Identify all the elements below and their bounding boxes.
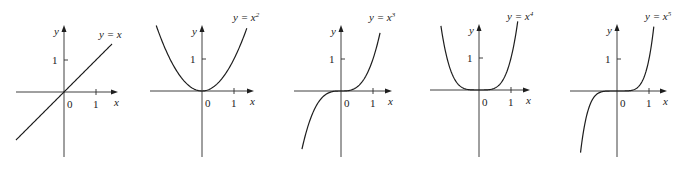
x-tick-label: 1	[370, 97, 376, 109]
y-axis-arrow-icon	[62, 25, 67, 32]
y-tick-label: 1	[329, 53, 335, 65]
y-axis-label: y	[468, 24, 474, 36]
origin-label: 0	[344, 97, 350, 109]
graph-panel-power-2: 110xyy = x2	[150, 11, 260, 157]
equation-label: y = x3	[368, 11, 396, 23]
y-axis-arrow-icon	[615, 24, 620, 31]
function-curve	[156, 26, 247, 91]
x-tick-label: 1	[646, 97, 652, 109]
origin-label: 0	[482, 96, 488, 108]
y-tick-label: 1	[467, 52, 473, 64]
equation-label: y = x	[98, 28, 122, 40]
y-axis-label: y	[606, 24, 612, 36]
y-tick-label: 1	[190, 53, 196, 65]
origin-label: 0	[205, 97, 211, 109]
graph-panel-power-4: 110xyy = x4	[430, 10, 534, 157]
x-axis-label: x	[387, 95, 393, 107]
x-axis-arrow-icon	[660, 89, 667, 94]
x-tick-label: 1	[231, 97, 237, 109]
equation-label: y = x2	[232, 11, 260, 23]
x-axis-arrow-icon	[523, 88, 530, 93]
origin-label: 0	[67, 98, 73, 110]
equation-label: y = x5	[644, 10, 672, 22]
origin-label: 0	[620, 97, 626, 109]
y-axis-arrow-icon	[339, 25, 344, 32]
graph-panel-power-3: 110xyy = x3	[294, 11, 396, 157]
equation-label: y = x4	[506, 10, 534, 22]
y-tick-label: 1	[52, 54, 58, 66]
y-axis-label: y	[330, 25, 336, 37]
y-axis-label: y	[53, 25, 59, 37]
x-axis-label: x	[249, 95, 255, 107]
x-axis-label: x	[662, 95, 668, 107]
y-tick-label: 1	[605, 53, 611, 65]
power-functions-figure: 110xyy = x110xyy = x2110xyy = x3110xyy =…	[0, 0, 679, 171]
x-tick-label: 1	[93, 98, 99, 110]
y-axis-arrow-icon	[200, 25, 205, 32]
x-axis-arrow-icon	[247, 89, 254, 94]
graph-panel-power-1: 110xyy = x	[16, 25, 122, 157]
x-axis-arrow-icon	[111, 90, 118, 95]
x-tick-label: 1	[508, 96, 514, 108]
x-axis-arrow-icon	[385, 89, 392, 94]
y-axis-label: y	[191, 25, 197, 37]
x-axis-label: x	[525, 94, 531, 106]
graph-panel-power-5: 110xyy = x5	[570, 10, 672, 157]
x-axis-label: x	[113, 96, 119, 108]
y-axis-arrow-icon	[477, 24, 482, 31]
